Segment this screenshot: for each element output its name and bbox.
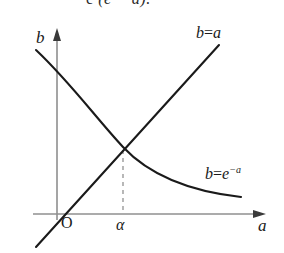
math-figure: = e (e − a). b a O α b=a b=e−a — [0, 0, 284, 253]
b-axis-label: b — [36, 28, 45, 48]
alpha-tick-label: α — [116, 216, 124, 234]
identity-line-label-rhs: a — [213, 24, 221, 41]
exponential-curve-label-lhs: b — [205, 165, 213, 182]
exponential-curve-label: b=e−a — [205, 164, 241, 183]
exponential-curve-label-exponent: −a — [229, 164, 241, 175]
identity-line-label-lhs: b — [196, 24, 204, 41]
identity-line-label: b=a — [196, 24, 221, 42]
b-axis-arrowhead — [53, 28, 61, 41]
exponential-curve-label-equals: = — [213, 165, 222, 182]
identity-line-label-equals: = — [204, 24, 213, 41]
origin-label: O — [61, 214, 73, 232]
b-axis — [53, 28, 61, 220]
a-axis-label: a — [258, 216, 267, 236]
